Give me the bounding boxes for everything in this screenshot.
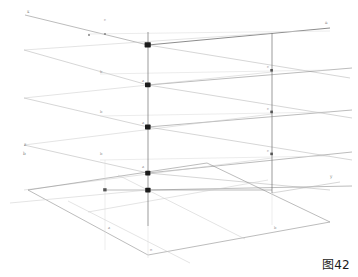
label-top-right: a [325,20,328,25]
plane-2 [24,50,352,118]
node-minor-2 [270,111,273,114]
label-bottom-right: b [274,226,277,230]
node-major-3 [145,125,151,130]
plane2-diag-fwd [148,85,352,118]
figure-caption: 图42 [322,259,350,271]
bottom-grid-row-2 [88,180,268,212]
label-left-lower: b [23,151,26,156]
bottom-grid-col-2 [118,175,245,239]
plane2-edge-left [24,50,148,85]
label-top-mid: c [104,18,106,22]
plane1-edge-left [25,15,148,45]
node-grid-left [103,188,106,191]
plane2-band [100,70,330,74]
node-minor-1 [270,69,273,72]
bottom-grid-col-1 [68,201,190,263]
plane1-edge-right [148,28,330,45]
node-major-2 [145,82,151,87]
bottom-ray-left [10,190,148,203]
label-node-n3: a [142,165,145,169]
plane3-edge-left [24,98,148,127]
right-axis-nodes [270,69,273,155]
label-mid-right: y [329,174,333,179]
node-major-4 [145,171,150,176]
label-bottom-left: a [108,226,111,230]
label-top-left: x [27,9,30,14]
node-minor-3 [270,153,273,156]
label-plane-l2: b [100,110,103,114]
bottom-plane-outline [28,163,330,255]
label-right-n1: c [267,65,269,69]
plane2-edge-right [148,68,352,85]
plane1-diag-fwd [148,45,350,78]
plane3-edge-right [148,110,352,127]
plane-1 [24,15,350,78]
plane1-tick-a [88,34,90,36]
plane1-band [88,31,330,34]
label-node-n2: a [142,121,145,125]
plane4-diag-fwd [148,173,330,190]
plane-3 [24,98,352,160]
label-node-n1: a [142,79,145,83]
figure-container: x c a y z b o a b b b b a a a c c c 图42 [0,0,358,277]
bottom-grid-plane [10,163,330,263]
label-bottom-center: o [150,248,152,252]
node-major-5 [145,188,150,193]
plane4-edge-left [24,145,148,173]
label-right-n2: c [267,107,269,111]
label-plane-l3: b [100,152,103,156]
plane3-band [100,112,330,116]
lattice-diagram: x c a y z b o a b b b b a a a c c c [0,0,358,277]
plane1-tick-b [104,33,106,35]
node-major-1 [145,42,151,47]
label-right-n3: c [267,149,269,153]
